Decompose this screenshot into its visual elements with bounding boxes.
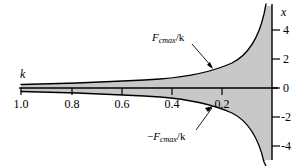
figure-container: 1.0 0.8 0.6 0.4 0.2 4 2 0 -2 -4 k x Fcma…	[0, 0, 306, 166]
y-tick-label-0: 0	[283, 82, 289, 94]
lower-annotation-symbol: F	[153, 130, 160, 142]
y-tick-label-2: 2	[283, 53, 289, 65]
lower-annotation-leader	[196, 106, 213, 130]
y-tick-label-m4: -4	[281, 140, 291, 152]
lower-curve-annotation: −Fcmax/k	[147, 131, 185, 142]
x-tick-label-2: 0.8	[65, 98, 80, 110]
lower-annotation-subscript: cmax	[160, 135, 177, 144]
x-axis-label-k: k	[20, 68, 25, 80]
x-tick-label-5: 0.2	[215, 98, 230, 110]
upper-annotation-leader	[192, 44, 213, 69]
y-tick-label-4: 4	[283, 24, 289, 36]
x-tick-label-1: 1.0	[14, 98, 29, 110]
upper-annotation-symbol: F	[152, 31, 159, 43]
y-axis-label-x: x	[281, 6, 286, 18]
lower-annotation-suffix: /k	[177, 130, 186, 142]
y-axis-ticks	[272, 30, 280, 146]
x-tick-label-3: 0.6	[115, 98, 130, 110]
x-tick-label-4: 0.4	[165, 98, 180, 110]
upper-annotation-suffix: /k	[176, 31, 185, 43]
upper-annotation-subscript: cmax	[159, 36, 176, 45]
upper-curve-annotation: Fcmax/k	[152, 32, 184, 43]
y-tick-label-m2: -2	[281, 111, 291, 123]
